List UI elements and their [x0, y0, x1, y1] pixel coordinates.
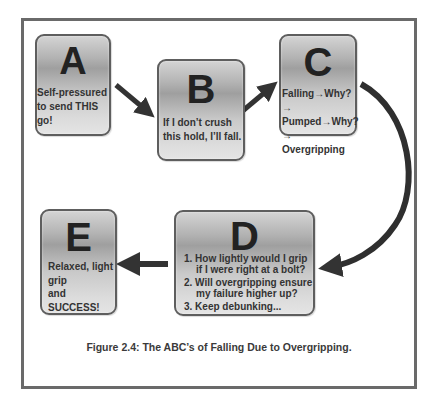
arrow-a-to-b	[116, 85, 147, 111]
step-box-c: C Falling→Why?→ Pumped→Why?→ Overgrippin…	[279, 34, 357, 136]
text-line: Pumped→Why?→	[282, 115, 358, 143]
step-letter: D	[176, 216, 313, 256]
list-item: 3. Keep debunking...	[184, 302, 316, 313]
step-letter: A	[37, 42, 109, 80]
text-line: grip	[48, 274, 120, 288]
list-item: 2. Will overgripping ensure my failure h…	[184, 278, 316, 299]
text-line: to send THIS go!	[37, 100, 113, 128]
step-text: If I don’t crush this hold, I’ll fall.	[163, 116, 247, 144]
step-text: Self-pressured to send THIS go!	[37, 86, 113, 128]
step-letter: E	[42, 217, 115, 257]
text-line: this hold, I’ll fall.	[163, 130, 247, 144]
text-line: Falling→Why?→	[282, 87, 358, 115]
step-text: Falling→Why?→ Pumped→Why?→ Overgripping	[282, 87, 358, 157]
text-line: Relaxed, light	[48, 260, 120, 274]
step-letter: C	[281, 42, 355, 82]
step-letter: B	[159, 69, 243, 109]
text-line: and	[48, 287, 120, 301]
list-item: 1. How lightly would I grip if I were ri…	[184, 254, 316, 275]
step-box-d: D 1. How lightly would I grip if I were …	[174, 210, 315, 316]
text-line: If I don’t crush	[163, 116, 247, 130]
text-line: Overgripping	[282, 143, 358, 157]
step-box-e: E Relaxed, light grip and SUCCESS!	[40, 209, 117, 315]
step-box-a: A Self-pressured to send THIS go!	[35, 34, 111, 136]
debunk-question-list: 1. How lightly would I grip if I were ri…	[184, 254, 316, 316]
text-line: Self-pressured	[37, 86, 113, 100]
figure-caption: Figure 2.4: The ABC’s of Falling Due to …	[21, 341, 417, 353]
step-box-b: B If I don’t crush this hold, I’ll fall.	[157, 59, 245, 161]
step-text: Relaxed, light grip and SUCCESS!	[48, 260, 120, 314]
text-line: SUCCESS!	[48, 301, 120, 315]
